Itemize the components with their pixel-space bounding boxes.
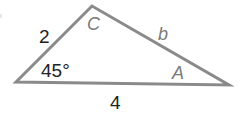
side-ba-length: 4 xyxy=(110,93,121,112)
scan-artifact xyxy=(0,14,2,18)
side-ca-label: b xyxy=(158,25,168,43)
side-bc-length: 2 xyxy=(39,27,50,46)
vertex-c-label: C xyxy=(87,15,100,33)
vertex-a-label: A xyxy=(172,64,184,82)
angle-b-measure: 45° xyxy=(41,61,70,80)
triangle-svg xyxy=(0,0,245,121)
triangle-diagram: 2 C b 45° A 4 xyxy=(0,0,245,121)
